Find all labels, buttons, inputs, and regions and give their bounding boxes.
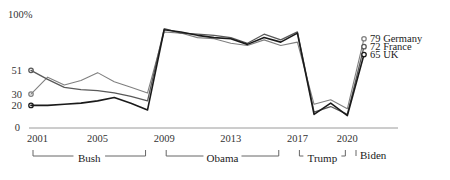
start-value-label-germany: 30: [12, 89, 23, 100]
x-tick-label-2009: 2009: [154, 133, 175, 144]
line-chart: 100%030512079 Germany72 France65 UK20012…: [0, 0, 450, 180]
era-label-biden: Biden: [360, 149, 387, 161]
era-label-obama: Obama: [207, 152, 239, 164]
end-marker-uk: [362, 52, 366, 56]
era-bracket-trump: Trump: [299, 150, 345, 164]
era-label-trump: Trump: [308, 152, 338, 164]
series-line-germany[interactable]: [31, 32, 364, 109]
end-marker-germany: [362, 37, 366, 41]
axis-label-100-percent: 100%: [8, 9, 33, 20]
era-label-bush: Bush: [78, 152, 101, 164]
x-tick-label-2001: 2001: [27, 133, 48, 144]
era-bracket-biden: Biden: [356, 149, 387, 161]
x-tick-label-2020: 2020: [337, 133, 358, 144]
start-value-label-france: 51: [12, 65, 23, 76]
end-marker-france: [362, 44, 366, 48]
x-tick-label-2017: 2017: [287, 133, 308, 144]
end-label-uk: 65 UK: [370, 49, 399, 60]
x-tick-label-2013: 2013: [220, 133, 241, 144]
era-bracket-bush: Bush: [33, 150, 146, 164]
x-tick-label-2005: 2005: [87, 133, 108, 144]
era-bracket-obama: Obama: [166, 150, 279, 164]
series-line-france[interactable]: [31, 29, 364, 115]
y-axis-label-0: 0: [15, 122, 20, 133]
chart-container: 100%030512079 Germany72 France65 UK20012…: [0, 0, 450, 180]
start-value-label-uk: 20: [12, 100, 23, 111]
